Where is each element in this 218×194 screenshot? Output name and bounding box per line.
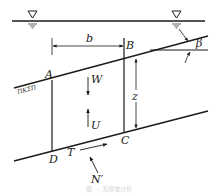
force-N-arrow [90, 157, 98, 173]
label-C: C [121, 134, 130, 147]
force-T-arrow [80, 144, 107, 150]
ground-surface-line [14, 36, 208, 88]
label-B: B [125, 39, 134, 52]
label-D: D [48, 153, 58, 166]
label-U: U [91, 119, 101, 132]
slip-surface-line [14, 111, 208, 161]
water-level-icon [172, 11, 181, 28]
beta-leader-lower [185, 52, 190, 63]
infinite-slope-diagram: b ΠΚΣΠ β A B C D z W U T N′ [0, 0, 218, 194]
label-b: b [86, 32, 93, 45]
beta-leader-upper [179, 29, 188, 41]
label-A: A [44, 68, 53, 81]
ground-hatch: ΠΚΣΠ [15, 83, 37, 95]
label-W: W [91, 73, 104, 86]
water-level-icon [28, 11, 37, 28]
label-beta: β [195, 37, 202, 50]
figure-caption: 图 … 无限坡分析 [0, 184, 218, 193]
label-z: z [131, 90, 138, 103]
label-T: T [67, 146, 76, 159]
